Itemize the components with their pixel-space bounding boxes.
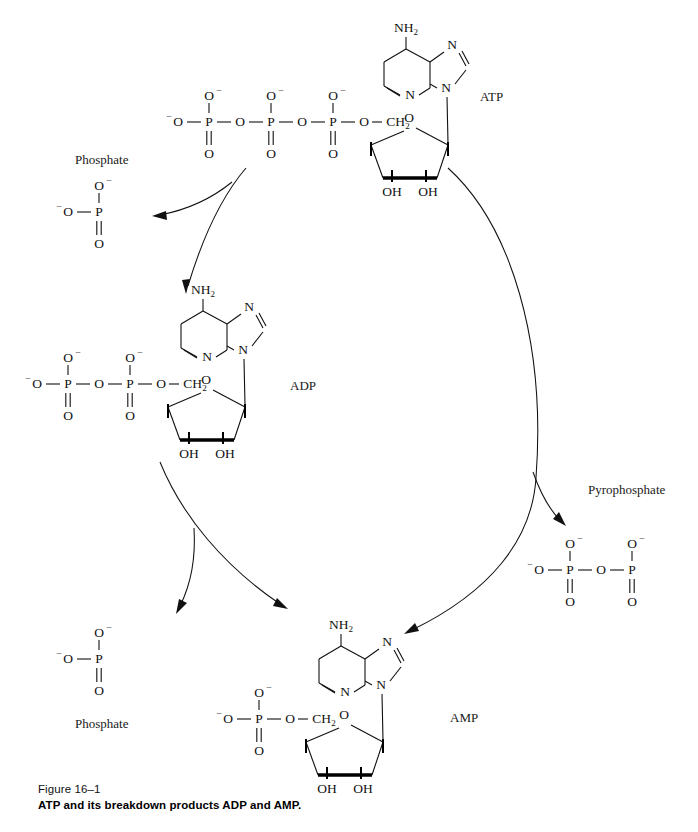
charge-negative: –: [340, 84, 346, 94]
atom-oxygen-double: O: [254, 743, 264, 758]
amp-monophosphate: O – P O – O O CH2: [216, 681, 336, 758]
atom-oxygen-double: O: [94, 236, 104, 251]
atom-phosphorus-alpha: P: [205, 114, 213, 129]
atom-oxygen-bridge: O: [596, 562, 606, 577]
arrow-release-phosphate-top: [152, 182, 232, 220]
charge-negative: –: [25, 372, 31, 382]
atom-oxygen-ester: O: [285, 711, 295, 726]
atom-hydroxyl-right: OH: [353, 781, 373, 796]
label-amp: AMP: [450, 710, 478, 725]
atom-oxygen-bridge: O: [297, 114, 307, 129]
figure-caption-text: ATP and its breakdown products ADP and A…: [38, 798, 301, 814]
atom-oxygen-anionic: O: [565, 536, 575, 551]
chemistry-diagram-canvas: O – P O – O O P O –: [0, 0, 698, 832]
arrow-head: [182, 279, 190, 294]
atom-hydroxyl-right: OH: [215, 446, 235, 461]
label-pyrophosphate: Pyrophosphate: [588, 482, 666, 497]
charge-negative: –: [577, 532, 583, 542]
atom-carbon-ch2: CH2: [312, 711, 335, 728]
atom-nitrogen-n7: N: [382, 634, 392, 649]
charge-negative: –: [527, 558, 533, 568]
charge-negative: –: [106, 174, 112, 184]
charge-negative: –: [137, 346, 143, 356]
byproduct-phosphate-bottom: O – P O – O Phosphate: [56, 621, 129, 731]
arrow-head: [152, 211, 167, 220]
atom-oxygen-anionic: O: [254, 685, 264, 700]
atom-hydroxyl-left: OH: [179, 446, 199, 461]
atom-nitrogen-n1: N: [340, 684, 350, 699]
atom-oxygen-terminal: O: [63, 651, 73, 666]
atp-ribose-ring: O OH OH: [371, 110, 448, 199]
atom-oxygen-anionic: O: [94, 178, 104, 193]
atom-oxygen-anionic: O: [266, 88, 276, 103]
atom-hydroxyl-left: OH: [382, 184, 402, 199]
atom-oxygen-anionic: O: [125, 350, 135, 365]
arrow-release-pyrophosphate: [533, 472, 566, 526]
atom-phosphorus: P: [255, 711, 263, 726]
atom-oxygen-anionic: O: [94, 625, 104, 640]
charge-negative: –: [278, 84, 284, 94]
atom-oxygen-ester: O: [359, 114, 369, 129]
arrow-atp-to-amp: [404, 168, 538, 634]
arrow-adp-to-amp: [160, 462, 288, 609]
byproduct-pyrophosphate: Pyrophosphate O – P O – O O P O – O: [527, 482, 666, 609]
label-atp: ATP: [480, 89, 503, 104]
figure-number: Figure 16–1: [38, 782, 301, 798]
atom-oxygen-terminal: O: [32, 376, 42, 391]
atom-phosphorus-beta: P: [267, 114, 275, 129]
atom-nitrogen-n9: N: [238, 342, 248, 357]
atom-amino-group: NH2: [394, 20, 418, 37]
arrow-head: [404, 623, 419, 634]
atom-oxygen-anionic: O: [204, 88, 214, 103]
atom-phosphorus: P: [95, 204, 103, 219]
arrow-head: [176, 599, 187, 614]
atom-phosphorus-two: P: [628, 562, 636, 577]
charge-negative: –: [106, 621, 112, 631]
atom-oxygen-double: O: [125, 408, 135, 423]
charge-negative: –: [56, 200, 62, 210]
atom-phosphorus-gamma: P: [329, 114, 337, 129]
adp-diphosphate-chain: O – P O – O O P O – O: [25, 346, 207, 423]
molecule-amp: O – P O – O O CH2 O: [216, 617, 478, 796]
charge-negative: –: [75, 346, 81, 356]
atom-oxygen-terminal: O: [534, 562, 544, 577]
atom-phosphorus: P: [95, 651, 103, 666]
label-adp: ADP: [290, 378, 316, 393]
atom-oxygen-bridge: O: [94, 376, 104, 391]
atom-oxygen-double: O: [63, 408, 73, 423]
atom-oxygen-ring: O: [201, 372, 211, 387]
atom-oxygen-bridge: O: [235, 114, 245, 129]
atom-amino-group: NH2: [191, 282, 215, 299]
arrow-release-phosphate-bottom: [176, 528, 194, 614]
atom-oxygen-anionic: O: [328, 88, 338, 103]
label-phosphate-top: Phosphate: [75, 152, 129, 167]
atom-nitrogen-n9: N: [376, 677, 386, 692]
arrow-head: [273, 598, 288, 609]
atom-oxygen-terminal: O: [173, 114, 183, 129]
atom-nitrogen-n9: N: [441, 80, 451, 95]
atom-amino-group: NH2: [329, 617, 353, 634]
atom-oxygen-ring: O: [339, 707, 349, 722]
adp-ribose-ring: O OH OH: [168, 372, 245, 461]
figure-root: O – P O – O O P O –: [0, 0, 698, 832]
atom-oxygen-double: O: [266, 146, 276, 161]
arrow-atp-to-adp: [182, 168, 246, 294]
charge-negative: –: [216, 84, 222, 94]
label-phosphate-bottom: Phosphate: [75, 716, 129, 731]
atom-hydroxyl-right: OH: [418, 184, 438, 199]
atom-hydroxyl-left: OH: [317, 781, 337, 796]
atom-oxygen-terminal: O: [63, 204, 73, 219]
atom-oxygen-double: O: [328, 146, 338, 161]
atom-oxygen-anionic: O: [63, 350, 73, 365]
atom-phosphorus-one: P: [566, 562, 574, 577]
figure-caption: Figure 16–1 ATP and its breakdown produc…: [38, 782, 301, 814]
atom-nitrogen-n7: N: [244, 299, 254, 314]
atom-oxygen-double: O: [204, 146, 214, 161]
charge-negative: –: [166, 110, 172, 120]
atom-phosphorus-alpha: P: [64, 376, 72, 391]
atom-oxygen-double: O: [565, 594, 575, 609]
atom-oxygen-anionic: O: [627, 536, 637, 551]
atom-phosphorus-beta: P: [126, 376, 134, 391]
charge-negative: –: [639, 532, 645, 542]
atom-oxygen-terminal: O: [223, 711, 233, 726]
